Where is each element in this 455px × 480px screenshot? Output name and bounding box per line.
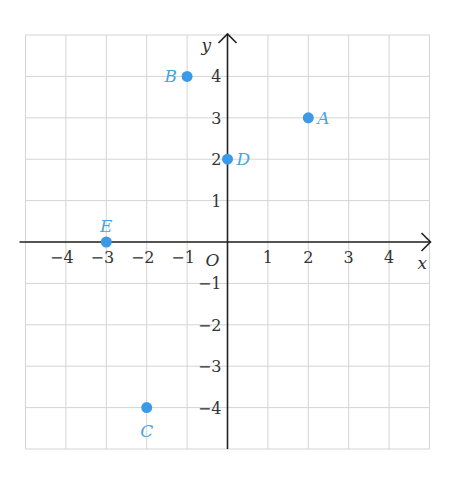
point-label: A [315, 108, 329, 128]
y-tick-label: −3 [198, 357, 222, 376]
x-tick-label: 4 [384, 248, 394, 267]
x-tick-label: −1 [171, 248, 195, 267]
point-label: B [164, 66, 178, 86]
y-axis-label: y [201, 35, 212, 55]
point-label: E [99, 216, 113, 236]
y-tick-label: 1 [211, 192, 221, 211]
point-marker-icon [101, 237, 112, 248]
y-tick-label: 4 [211, 67, 221, 86]
y-tick-label: 2 [211, 150, 221, 169]
x-tick-label: −4 [50, 248, 74, 267]
point-e: E [99, 216, 113, 248]
x-axis-label: x [418, 253, 428, 273]
y-tick-label: 3 [211, 109, 221, 128]
point-label: D [236, 149, 251, 169]
x-tick-label: −3 [91, 248, 115, 267]
point-d: D [222, 149, 251, 169]
point-label: C [140, 421, 153, 441]
x-tick-label: 2 [303, 248, 313, 267]
y-tick-label: −4 [198, 399, 222, 418]
y-tick-label: −2 [198, 316, 222, 335]
point-marker-icon [141, 402, 152, 413]
point-marker-icon [303, 112, 314, 123]
origin-label: O [206, 250, 220, 270]
point-marker-icon [182, 71, 193, 82]
point-c: C [140, 402, 153, 441]
y-tick-label: −1 [198, 274, 222, 293]
point-marker-icon [222, 154, 233, 165]
x-tick-label: 3 [344, 248, 354, 267]
x-tick-label: 1 [263, 248, 273, 267]
coordinate-plane: −4−3−2−112344321−1−2−3−4 ABCDE x y O [0, 0, 455, 480]
axes [20, 34, 431, 449]
x-tick-label: −2 [131, 248, 155, 267]
